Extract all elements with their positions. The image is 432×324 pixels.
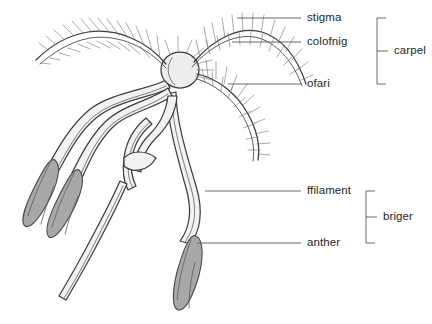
stigma-arm-right	[192, 13, 313, 86]
stigma-arm-lower	[197, 60, 270, 161]
stigma-arm-left	[36, 18, 166, 68]
label-ofari: ofari	[307, 78, 330, 90]
diagram-canvas: .ink { fill:none; stroke:#3a3a3a; stroke…	[0, 0, 432, 324]
leader-lines	[197, 18, 301, 243]
anther-lower	[173, 236, 202, 310]
ovary-bulb	[161, 52, 199, 88]
label-stigma: stigma	[307, 12, 341, 24]
group-label-carpel: carpel	[394, 45, 426, 57]
label-ffilament: ffilament	[307, 185, 351, 197]
floret-illustration: .ink { fill:none; stroke:#3a3a3a; stroke…	[0, 0, 432, 324]
label-anther: anther	[307, 237, 340, 249]
group-label-briger: briger	[383, 211, 413, 223]
filament-node	[124, 152, 156, 170]
label-colofnig: colofnig	[307, 36, 347, 48]
